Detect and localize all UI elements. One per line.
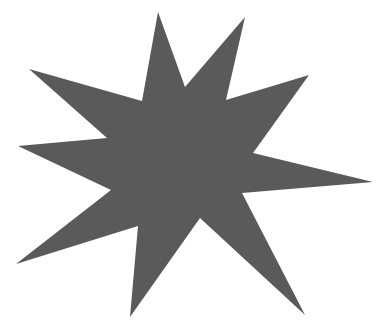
star-shape-svg [0,0,386,335]
star-burst-shape [16,12,373,317]
canvas [0,0,386,335]
